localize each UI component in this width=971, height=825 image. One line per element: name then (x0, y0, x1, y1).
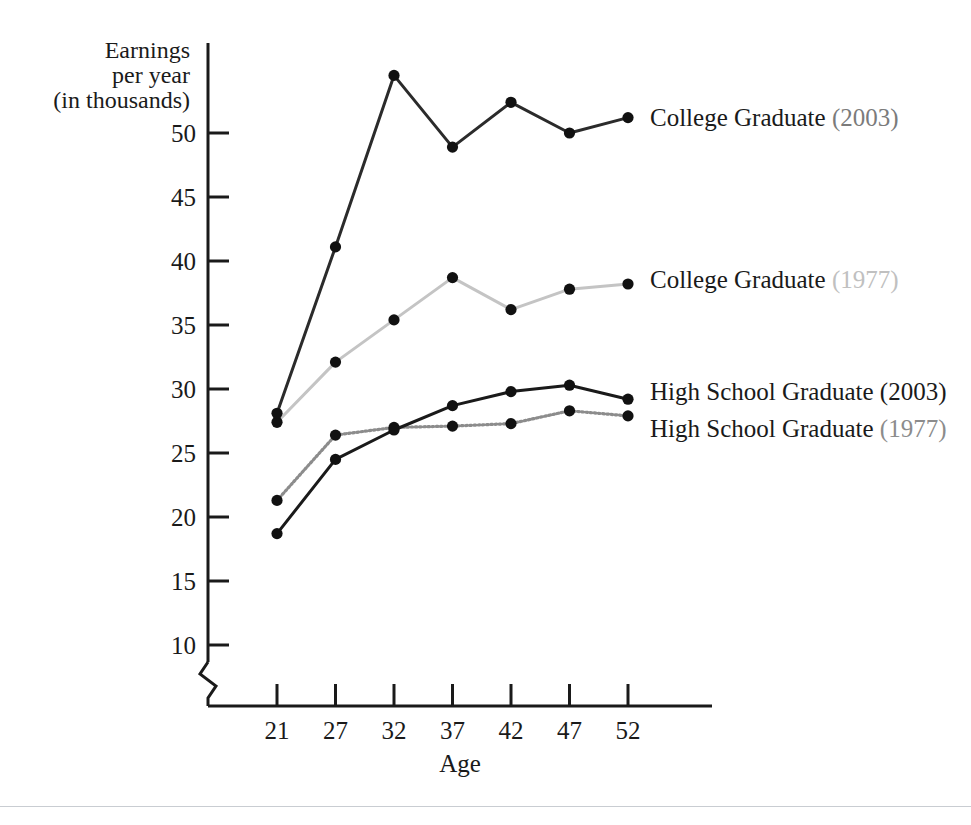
data-point (330, 357, 341, 368)
data-point (505, 418, 516, 429)
x-tick-label: 21 (265, 717, 290, 744)
series-0 (271, 70, 633, 419)
legend-label: College Graduate (1977) (650, 266, 899, 294)
y-tick-label: 35 (171, 312, 196, 339)
y-tick-label: 10 (171, 632, 196, 659)
legend-series-name: College Graduate (650, 266, 832, 293)
legend-series-year: (2003) (832, 104, 899, 132)
legend-label: High School Graduate (2003) (650, 378, 946, 406)
legend-entry-1: College Graduate (1977) (650, 266, 899, 294)
series-2 (271, 380, 633, 540)
data-point (564, 127, 575, 138)
x-tick-label: 47 (557, 717, 582, 744)
x-tick-label: 42 (499, 717, 524, 744)
x-axis-title: Age (439, 750, 481, 777)
legend-series-year: (1977) (880, 415, 947, 443)
y-axis-ticks: 101520253035404550 (171, 120, 229, 659)
y-axis-title-line-1: Earnings (105, 37, 190, 63)
axis-lines (200, 43, 712, 706)
data-point (564, 405, 575, 416)
data-point (564, 380, 575, 391)
footer-divider (0, 806, 971, 807)
axis-break-icon (200, 662, 216, 706)
x-tick-label: 32 (382, 717, 407, 744)
data-point (330, 430, 341, 441)
data-point (388, 424, 399, 435)
y-axis-title-line-3: (in thousands) (53, 87, 190, 113)
data-point (271, 408, 282, 419)
data-point (564, 284, 575, 295)
earnings-by-age-chart: Earnings per year (in thousands) 1015202… (0, 0, 971, 825)
y-axis-title-line-2: per year (112, 62, 190, 88)
legend: College Graduate (2003)College Graduate … (650, 104, 946, 443)
data-point (622, 394, 633, 405)
series-layer (271, 70, 633, 539)
data-point (330, 241, 341, 252)
data-point (505, 97, 516, 108)
data-point (447, 272, 458, 283)
data-point (447, 142, 458, 153)
legend-series-name: High School Graduate (650, 378, 880, 405)
legend-entry-3: High School Graduate (1977) (650, 415, 946, 443)
legend-series-year: (1977) (832, 266, 899, 294)
x-axis-ticks: 21273237424752 (265, 684, 641, 744)
x-tick-label: 37 (440, 717, 465, 744)
y-tick-label: 50 (171, 120, 196, 147)
data-point (388, 70, 399, 81)
series-3 (271, 405, 633, 506)
chart-svg: Earnings per year (in thousands) 1015202… (0, 0, 971, 825)
legend-series-year: (2003) (880, 378, 947, 406)
data-point (622, 278, 633, 289)
legend-label: College Graduate (2003) (650, 104, 899, 132)
data-point (271, 495, 282, 506)
y-tick-label: 40 (171, 248, 196, 275)
x-tick-label: 52 (616, 717, 641, 744)
y-tick-label: 25 (171, 440, 196, 467)
data-point (447, 400, 458, 411)
legend-label: High School Graduate (1977) (650, 415, 946, 443)
series-line (277, 75, 628, 413)
legend-series-name: College Graduate (650, 104, 832, 131)
y-tick-label: 30 (171, 376, 196, 403)
y-tick-label: 45 (171, 184, 196, 211)
x-tick-label: 27 (323, 717, 348, 744)
data-point (622, 410, 633, 421)
data-point (447, 421, 458, 432)
legend-series-name: High School Graduate (650, 415, 880, 442)
data-point (505, 304, 516, 315)
data-point (622, 112, 633, 123)
data-point (388, 314, 399, 325)
y-axis-title: Earnings per year (in thousands) (53, 37, 190, 113)
data-point (271, 528, 282, 539)
legend-entry-2: High School Graduate (2003) (650, 378, 946, 406)
data-point (505, 386, 516, 397)
y-tick-label: 15 (171, 568, 196, 595)
legend-entry-0: College Graduate (2003) (650, 104, 899, 132)
data-point (330, 454, 341, 465)
y-tick-label: 20 (171, 504, 196, 531)
